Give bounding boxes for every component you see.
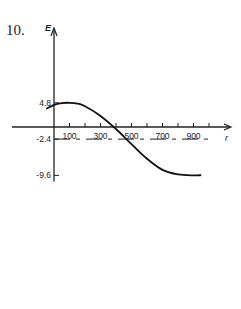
y-axis-label: E	[45, 23, 52, 33]
x-axis-label: r	[225, 133, 229, 143]
chart: Er1003005007009004.8-2.4-9.6	[0, 0, 241, 309]
y-tick-label: -2.4	[36, 134, 51, 144]
y-tick-label: -9.6	[36, 170, 51, 180]
